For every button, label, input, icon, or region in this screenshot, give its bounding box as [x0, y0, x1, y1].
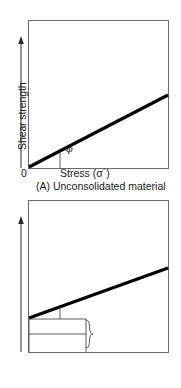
phi-symbol-a: ϕ	[66, 143, 73, 154]
shear-strength-figure: Shear strength 0 Stress (σ´) ϕ (A) Uncon…	[0, 0, 181, 388]
y-axis-arrow-head-b	[18, 216, 24, 224]
cohesion-brace-b	[86, 320, 93, 348]
failure-envelope-line-a	[29, 95, 168, 167]
panel-caption-a: (A) Unconsolidated material	[36, 180, 166, 192]
panel-b-rock-material: Shear strength 0 Stress (σ´) ϕ c ϕ = Ang…	[0, 194, 181, 388]
panel-a-unconsolidated: Shear strength 0 Stress (σ´) ϕ (A) Uncon…	[0, 0, 181, 194]
y-axis-arrow-head-a	[18, 36, 24, 44]
failure-envelope-line-b	[29, 268, 168, 318]
panel-b-plot	[0, 194, 181, 388]
plot-frame-a	[29, 21, 169, 169]
x-axis-label-a: Stress (σ´)	[60, 167, 110, 179]
origin-label-a: 0	[21, 167, 27, 179]
y-axis-label-a: Shear strength	[16, 83, 28, 150]
